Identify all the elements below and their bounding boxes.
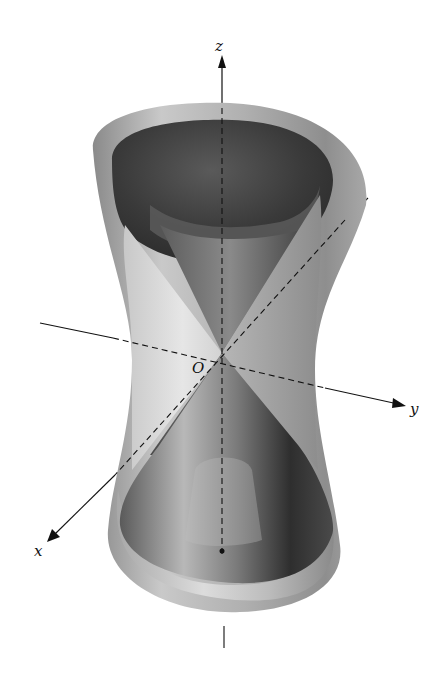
z-axis-label: z [214, 37, 223, 55]
y-axis-right-segment [325, 388, 398, 404]
bottom-cone-highlight [185, 458, 262, 546]
y-axis-label: y [409, 400, 419, 418]
y-axis-arrowhead-icon [392, 398, 406, 408]
x-axis-bottom-segment [54, 475, 115, 535]
z-axis-arrowhead-icon [218, 55, 226, 68]
hyperboloid-figure: z y x O [0, 0, 445, 680]
z-axis-bottom-dot [220, 549, 225, 554]
x-axis-label: x [34, 542, 43, 560]
y-axis-left-segment [40, 323, 113, 338]
origin-label: O [192, 359, 204, 377]
